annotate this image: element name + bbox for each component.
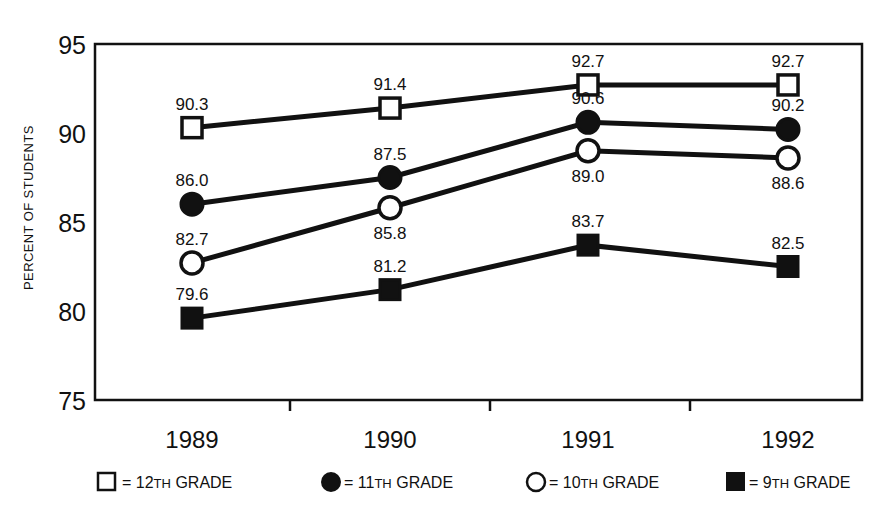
- data-point-marker: [778, 75, 798, 95]
- data-point-label: 90.3: [175, 95, 208, 114]
- series-line: [192, 245, 788, 318]
- data-point-marker: [182, 118, 202, 138]
- x-axis-tick-labels: 1989 1990 1991 1992: [165, 426, 814, 453]
- series-line: [192, 85, 788, 128]
- data-point-label: 92.7: [571, 52, 604, 71]
- data-point-marker: [778, 257, 798, 277]
- data-point-label: 85.8: [373, 224, 406, 243]
- x-tick-1992: 1992: [761, 426, 814, 453]
- series-11th-grade: 86.087.590.690.2: [175, 89, 804, 215]
- legend-label: = 10TH GRADE: [549, 474, 659, 491]
- data-point-marker: [777, 147, 799, 169]
- series-layer: 90.391.492.792.786.087.590.690.282.785.8…: [175, 52, 804, 328]
- series-10th-grade: 82.785.889.088.6: [175, 140, 804, 274]
- legend-label: = 12TH GRADE: [122, 474, 232, 491]
- legend-marker-filled-circle: [322, 473, 340, 491]
- legend-item-9th-grade[interactable]: = 9TH GRADE: [727, 473, 850, 491]
- series-line: [192, 151, 788, 263]
- data-point-marker: [577, 111, 599, 133]
- legend-item-12th-grade[interactable]: = 12TH GRADE: [98, 473, 232, 491]
- chart-legend: = 12TH GRADE= 11TH GRADE= 10TH GRADE= 9T…: [98, 473, 850, 491]
- data-point-marker: [380, 280, 400, 300]
- data-point-label: 82.5: [771, 234, 804, 253]
- chart-container: PERCENT OF STUDENTS 95 90 85 80 75 1989 …: [0, 0, 888, 514]
- data-point-label: 86.0: [175, 171, 208, 190]
- data-point-marker: [777, 118, 799, 140]
- data-point-marker: [181, 193, 203, 215]
- data-point-marker: [577, 140, 599, 162]
- data-point-label: 87.5: [373, 145, 406, 164]
- data-point-label: 90.2: [771, 96, 804, 115]
- y-tick-85: 85: [58, 209, 86, 237]
- data-point-marker: [379, 197, 401, 219]
- legend-item-10th-grade[interactable]: = 10TH GRADE: [527, 473, 659, 491]
- legend-label: = 11TH GRADE: [344, 474, 453, 491]
- y-tick-75: 75: [58, 387, 86, 415]
- data-point-label: 82.7: [175, 230, 208, 249]
- data-point-label: 81.2: [373, 257, 406, 276]
- series-line: [192, 122, 788, 204]
- data-point-label: 92.7: [771, 52, 804, 71]
- x-tick-1991: 1991: [561, 426, 614, 453]
- x-tick-1989: 1989: [165, 426, 218, 453]
- data-point-label: 91.4: [373, 75, 406, 94]
- line-chart: PERCENT OF STUDENTS 95 90 85 80 75 1989 …: [0, 0, 888, 514]
- y-tick-80: 80: [58, 298, 86, 326]
- x-axis-ticks: [290, 400, 690, 411]
- data-point-label: 79.6: [175, 285, 208, 304]
- legend-marker-open-square: [98, 473, 115, 490]
- legend-marker-filled-square: [727, 473, 744, 490]
- data-point-marker: [380, 98, 400, 118]
- data-point-marker: [181, 252, 203, 274]
- y-tick-90: 90: [58, 120, 86, 148]
- legend-label: = 9TH GRADE: [749, 474, 850, 491]
- y-axis-title: PERCENT OF STUDENTS: [21, 125, 36, 290]
- legend-marker-open-circle: [527, 473, 545, 491]
- data-point-marker: [379, 167, 401, 189]
- data-point-marker: [182, 308, 202, 328]
- x-tick-1990: 1990: [363, 426, 416, 453]
- data-point-label: 83.7: [571, 212, 604, 231]
- legend-item-11th-grade[interactable]: = 11TH GRADE: [322, 473, 453, 491]
- data-point-label: 88.6: [771, 174, 804, 193]
- series-9th-grade: 79.681.283.782.5: [175, 212, 804, 328]
- data-point-marker: [578, 235, 598, 255]
- data-point-label: 89.0: [571, 167, 604, 186]
- data-point-label: 90.6: [571, 89, 604, 108]
- y-axis-tick-labels: 95 90 85 80 75: [58, 31, 86, 415]
- y-tick-95: 95: [58, 31, 86, 59]
